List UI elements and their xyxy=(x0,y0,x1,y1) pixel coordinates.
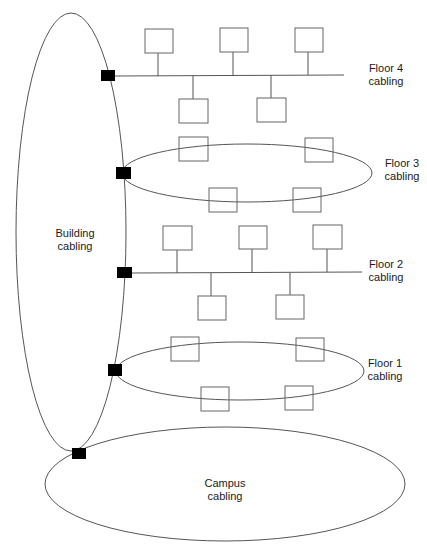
floor2-device xyxy=(239,226,267,249)
floor4-cabling-label: Floor 4 cabling xyxy=(356,62,416,88)
floor2-cabling-label: Floor 2 cabling xyxy=(356,258,416,284)
campus-cabling-label: Campus cabling xyxy=(190,477,260,503)
floor4-device xyxy=(295,28,323,52)
floor3-cabling-label: Floor 3 cabling xyxy=(372,157,427,183)
floor3-ring xyxy=(122,137,372,212)
floor3-device xyxy=(209,188,237,212)
floor4-device xyxy=(145,29,173,53)
campus-connector-node xyxy=(72,448,86,459)
floor3-connector-node xyxy=(116,167,131,179)
floor2-device xyxy=(198,296,226,320)
floor1-device xyxy=(171,337,199,361)
floor2-device xyxy=(276,295,304,319)
floor4-bus xyxy=(115,28,344,123)
floor2-bus xyxy=(132,225,362,320)
floor4-connector-node xyxy=(101,70,115,81)
floor1-cabling-label: Floor 1 cabling xyxy=(355,357,415,383)
building-cabling-label: Building cabling xyxy=(40,227,110,253)
floor1-connector-node xyxy=(108,364,122,376)
floor1-device xyxy=(201,387,229,411)
floor4-device xyxy=(220,28,248,52)
floor4-device xyxy=(257,98,286,122)
floor1-device xyxy=(296,338,324,361)
floor3-device xyxy=(179,137,208,161)
floor2-device xyxy=(163,226,192,250)
floor3-device xyxy=(305,138,333,162)
floor1-ring xyxy=(116,337,364,411)
floor2-device xyxy=(313,225,342,249)
floor2-connector-node xyxy=(117,267,132,278)
floor3-device xyxy=(293,188,321,212)
floor4-device xyxy=(179,99,208,123)
floor1-device xyxy=(285,386,313,410)
